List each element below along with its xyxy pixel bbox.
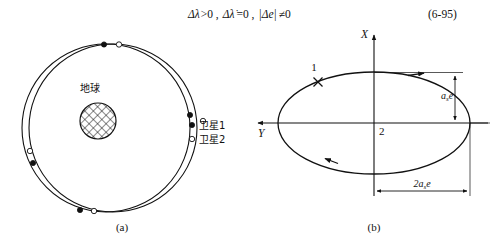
equation-number: (6-95) (428, 8, 457, 21)
figure-root: Δλ>0 ,Δλ̇=0 ,|Δe|≠0 (6-95) 地球 卫星1 (0, 0, 503, 240)
satellite-1-marker (101, 42, 106, 47)
dim-horizontal-label: 2ase (413, 178, 431, 191)
dim-vertical-label: ase (441, 90, 454, 103)
point-1-label: 1 (311, 61, 317, 73)
ellipse-direction-arrow-top (408, 73, 424, 75)
legend-hollow-dot-icon (189, 136, 194, 141)
earth-body-icon (80, 103, 116, 139)
ellipse-direction-arrow-bottom (325, 159, 338, 164)
equation-part-1: Δλ (187, 8, 200, 20)
satellite-1-marker (30, 160, 35, 165)
axis-x-label: X (360, 28, 369, 40)
equation-expression: Δλ>0 ,Δλ̇=0 ,|Δe|≠0 (187, 8, 291, 21)
point-1-marker (314, 78, 323, 87)
panel-b-caption: (b) (368, 221, 381, 234)
equation-part-3: |Δe| (258, 8, 276, 21)
equation-rel-3: ≠0 (279, 8, 291, 20)
dimension-horizontal: 2ase (377, 123, 470, 196)
legend-label-satellite-2: 卫星2 (199, 134, 225, 145)
satellite-2-marker (116, 42, 121, 47)
panel-b: X Y 1 2 ase 2ase (b) (258, 28, 490, 234)
equation-rel-1: >0 , (201, 8, 219, 21)
legend-filled-dot-icon (189, 122, 194, 127)
legend: 卫星1 卫星2 (189, 120, 225, 145)
panel-a-caption: (a) (116, 221, 129, 234)
satellite-2-marker (27, 148, 32, 153)
equation-line: Δλ>0 ,Δλ̇=0 ,|Δe|≠0 (6-95) (187, 8, 457, 21)
point-2-label: 2 (379, 125, 385, 137)
satellite-2-marker (91, 208, 96, 213)
dimension-vertical: ase (374, 73, 490, 124)
legend-label-satellite-1: 卫星1 (199, 120, 225, 131)
satellite-1-marker (77, 207, 82, 212)
satellite-1-marker (187, 112, 192, 117)
earth-label: 地球 (80, 82, 100, 94)
axis-y-label: Y (258, 127, 266, 139)
equation-rel-2: =0 , (236, 8, 254, 21)
panel-a: 地球 卫星1 卫星2 (a) (22, 42, 225, 234)
